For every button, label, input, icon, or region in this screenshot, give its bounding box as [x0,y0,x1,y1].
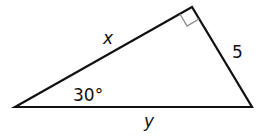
side-label-x: x [102,28,114,48]
side-label-5: 5 [232,42,243,62]
right-triangle-diagram: x 5 y 30° [0,0,262,137]
side-label-y: y [143,111,155,131]
triangle-outline [15,7,252,107]
angle-label-30: 30° [73,85,103,105]
